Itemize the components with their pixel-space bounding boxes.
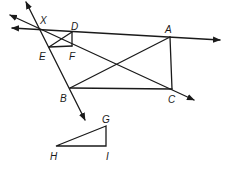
label-D: D	[71, 21, 78, 32]
segment-BA	[70, 37, 170, 88]
segment-EF	[49, 46, 72, 47]
label-X: X	[39, 15, 47, 26]
segment-AC	[170, 37, 172, 89]
line-XEB	[26, 2, 85, 120]
label-F: F	[69, 51, 76, 62]
label-I: I	[106, 151, 109, 162]
label-C: C	[168, 94, 176, 105]
label-E: E	[39, 51, 46, 62]
label-B: B	[60, 93, 67, 104]
label-H: H	[50, 151, 58, 162]
segment-BC	[70, 88, 172, 89]
label-A: A	[164, 24, 172, 35]
triangle-GHI	[56, 126, 106, 146]
label-G: G	[102, 114, 110, 125]
geometry-diagram: X D A E F B C G H I	[0, 0, 226, 169]
